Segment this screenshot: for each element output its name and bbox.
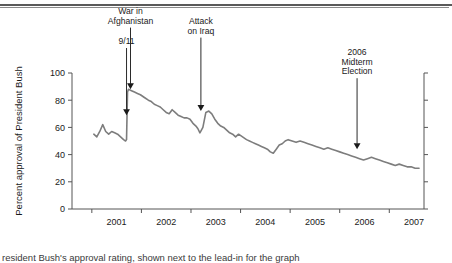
y-tick-label: 0: [60, 204, 65, 214]
annotation-midterm-election-2006: 2006MidtermElection: [342, 47, 373, 149]
annotation-label: on Iraq: [188, 26, 215, 36]
y-axis-title: Percent approval of President Bush: [13, 66, 24, 215]
annotation-nine-eleven: 9/11: [118, 36, 134, 115]
x-axis-ticks: [92, 209, 389, 213]
figure-container: 020406080100 200120022003200420052006200…: [0, 0, 452, 263]
y-tick-label: 100: [50, 68, 65, 78]
x-axis-tick-labels: 2001200220032004200520062007: [107, 217, 424, 227]
x-tick-label: 2003: [206, 217, 226, 227]
y-tick-label: 40: [55, 150, 65, 160]
approval-rating-line-chart: 020406080100 200120022003200420052006200…: [0, 0, 452, 248]
arrow-head-icon: [198, 105, 205, 111]
x-tick-label: 2002: [156, 217, 176, 227]
data-series-group: [94, 89, 419, 168]
annotation-label: 2006: [348, 47, 367, 57]
annotation-war-in-afghanistan: War inAfghanistan: [108, 6, 154, 89]
annotation-label: Election: [342, 66, 373, 76]
y-tick-label: 80: [55, 96, 65, 106]
arrow-head-icon: [127, 83, 134, 89]
annotation-label: 9/11: [118, 36, 134, 46]
annotation-label: War in: [118, 6, 143, 16]
arrow-head-icon: [354, 143, 361, 149]
figure-caption: resident Bush's approval rating, shown n…: [2, 252, 452, 263]
y-tick-label: 20: [55, 177, 65, 187]
x-tick-label: 2007: [404, 217, 424, 227]
approval-line: [94, 89, 419, 168]
x-tick-label: 2006: [354, 217, 374, 227]
x-tick-label: 2004: [255, 217, 275, 227]
y-axis-tick-labels: 020406080100: [50, 68, 65, 214]
y-tick-label: 60: [55, 123, 65, 133]
annotation-attack-on-iraq: Attackon Iraq: [188, 16, 215, 111]
annotation-label: Afghanistan: [108, 16, 154, 26]
annotation-label: Attack: [189, 16, 214, 26]
annotations-group: 9/11War inAfghanistanAttackon Iraq2006Mi…: [108, 6, 373, 149]
annotation-label: Midterm: [342, 57, 373, 67]
x-tick-label: 2001: [107, 217, 127, 227]
arrow-head-icon: [123, 109, 130, 115]
x-tick-label: 2005: [305, 217, 325, 227]
